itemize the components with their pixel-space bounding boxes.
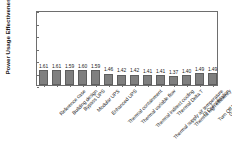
x-axis-category-labels: Reference caseBuilding designBypass UPSM… bbox=[36, 88, 218, 150]
bar-slot: 1.40 bbox=[180, 12, 193, 85]
bar-slot: 1.42 bbox=[128, 12, 141, 85]
bar[interactable] bbox=[195, 73, 204, 85]
bar[interactable] bbox=[130, 75, 139, 86]
x-axis-tick-mark bbox=[174, 85, 175, 87]
y-axis-title: Power Usage Effectiveness [-] bbox=[4, 0, 26, 79]
y-axis-tick-mark bbox=[37, 62, 39, 63]
bar-slot: 1.49 bbox=[193, 12, 206, 85]
bar[interactable] bbox=[104, 74, 113, 86]
x-axis-tick-mark bbox=[96, 85, 97, 87]
bar[interactable] bbox=[78, 70, 87, 85]
x-axis-tick-mark bbox=[109, 85, 110, 87]
bar[interactable] bbox=[143, 75, 152, 85]
y-axis-tick-mark bbox=[37, 50, 39, 51]
bar-series: 1.611.611.591.601.591.461.421.421.411.41… bbox=[37, 12, 217, 85]
bar-value-label: 1.60 bbox=[78, 64, 87, 69]
bar-value-label: 1.41 bbox=[156, 69, 165, 74]
bar-value-label: 1.61 bbox=[52, 64, 61, 69]
x-axis-tick-mark bbox=[122, 85, 123, 87]
bar-value-label: 1.40 bbox=[182, 69, 191, 74]
x-axis-tick-mark bbox=[200, 85, 201, 87]
bar-value-label: 1.49 bbox=[195, 67, 204, 72]
bar-value-label: 1.46 bbox=[104, 67, 113, 72]
y-axis-tick-mark bbox=[37, 12, 39, 13]
x-axis-tick-mark bbox=[83, 85, 84, 87]
bar-value-label: 1.61 bbox=[39, 64, 48, 69]
bar-slot: 1.41 bbox=[154, 12, 167, 85]
bar[interactable] bbox=[169, 76, 178, 85]
y-axis-tick-mark bbox=[37, 25, 39, 26]
bar-slot: 1.61 bbox=[50, 12, 63, 85]
x-axis-tick-mark bbox=[187, 85, 188, 87]
bar-slot: 1.41 bbox=[141, 12, 154, 85]
bar-value-label: 1.37 bbox=[169, 70, 178, 75]
bar-value-label: 1.42 bbox=[117, 68, 126, 73]
bar-slot: 1.59 bbox=[89, 12, 102, 85]
bar[interactable] bbox=[208, 73, 217, 85]
bar[interactable] bbox=[91, 70, 100, 85]
bar[interactable] bbox=[52, 70, 61, 85]
bar[interactable] bbox=[156, 75, 165, 85]
y-axis-tick-mark bbox=[37, 75, 39, 76]
bar-value-label: 1.59 bbox=[65, 64, 74, 69]
bar-slot: 1.42 bbox=[115, 12, 128, 85]
bar[interactable] bbox=[39, 70, 48, 85]
x-axis-tick-mark bbox=[148, 85, 149, 87]
plot-area: 1.611.611.591.601.591.461.421.421.411.41… bbox=[36, 11, 218, 86]
x-axis-tick-mark bbox=[135, 85, 136, 87]
bar-value-label: 1.41 bbox=[143, 69, 152, 74]
chart-figure: Power Usage Effectiveness [-] 11.522.533… bbox=[0, 0, 232, 152]
x-axis-tick-mark bbox=[213, 85, 214, 87]
bar[interactable] bbox=[182, 75, 191, 85]
x-axis-tick-mark bbox=[44, 85, 45, 87]
x-axis-tick-mark bbox=[70, 85, 71, 87]
bar-slot: 1.49 bbox=[206, 12, 219, 85]
bar-slot: 1.46 bbox=[102, 12, 115, 85]
x-axis-tick-mark bbox=[57, 85, 58, 87]
bar-value-label: 1.49 bbox=[208, 67, 217, 72]
x-axis-tick-mark bbox=[161, 85, 162, 87]
bar-value-label: 1.59 bbox=[91, 64, 100, 69]
bar[interactable] bbox=[117, 75, 126, 86]
bar-value-label: 1.42 bbox=[130, 68, 139, 73]
bar[interactable] bbox=[65, 70, 74, 85]
y-axis-tick-mark bbox=[37, 37, 39, 38]
bar-slot: 1.60 bbox=[76, 12, 89, 85]
bar-slot: 1.59 bbox=[63, 12, 76, 85]
bar-slot: 1.37 bbox=[167, 12, 180, 85]
